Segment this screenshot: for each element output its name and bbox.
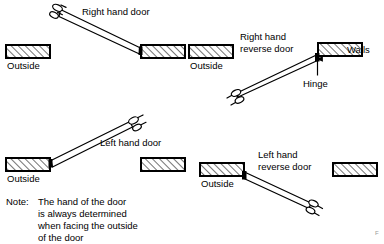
label-left-hand-reverse-line1: Left hand	[258, 149, 298, 161]
label-right-hand-door: Right hand door	[82, 6, 150, 18]
wall-right-panel4	[333, 163, 377, 176]
label-right-hand-reverse-line1: Right hand	[240, 31, 286, 43]
page-edge-mark: F	[375, 230, 379, 236]
label-walls: Walls	[347, 44, 370, 56]
hinge-point-panel4	[242, 171, 247, 180]
label-outside-panel2: Outside	[190, 60, 223, 72]
note-prefix: Note:	[6, 196, 29, 208]
label-left-hand-door: Left hand door	[100, 137, 161, 149]
hinge-point-panel1	[139, 47, 143, 56]
wall-left-panel2	[189, 45, 233, 58]
hinge-point-panel3	[49, 159, 53, 168]
note-line-2: is always determined	[38, 208, 127, 220]
label-outside-panel3: Outside	[7, 173, 40, 185]
note-line-1: The hand of the door	[38, 196, 126, 208]
door-leaf-panel2	[237, 55, 318, 98]
wall-left-panel4	[200, 163, 244, 176]
label-outside-panel1: Outside	[7, 60, 40, 72]
door-leaf-panel4	[244, 173, 311, 209]
wall-left-panel3	[6, 158, 50, 171]
label-hinge: Hinge	[303, 78, 328, 90]
wall-right-panel3	[141, 158, 185, 171]
figure-canvas: Right hand door Outside Right hand rever…	[0, 0, 384, 244]
note-line-4: of the door	[38, 232, 83, 244]
wall-right-panel1	[141, 45, 185, 58]
label-outside-panel4: Outside	[201, 178, 234, 190]
label-left-hand-reverse-line2: reverse door	[258, 161, 311, 173]
door-hardware-panel3	[128, 115, 146, 132]
label-right-hand-reverse-line2: reverse door	[240, 43, 293, 55]
note-line-3: when facing the outside	[38, 220, 138, 232]
wall-left-panel1	[6, 45, 50, 58]
